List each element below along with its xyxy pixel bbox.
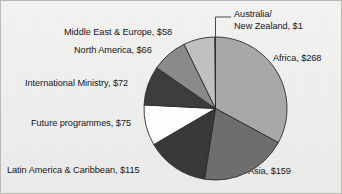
slice-label-australia-line2: New Zealand, $1 [234,21,303,31]
slice-label-middle-east-europe: Middle East & Europe, $58 [64,27,172,39]
slice-label-africa: Africa, $268 [273,53,321,65]
slice-label-international-ministry: International Ministry, $72 [25,78,128,90]
slice-label-future-programmes: Future programmes, $75 [31,118,131,130]
pie-slice-group [144,37,287,180]
leader-line-group [216,17,232,37]
slice-label-asia: Asia, $159 [248,166,291,178]
slice-label-australia-line1: Australia/ [234,9,272,19]
slice-label-latin-america-caribbean: Latin America & Caribbean, $115 [7,165,140,177]
pie-slice [215,37,216,109]
pie-chart-figure: Australia/ New Zealand, $1 Middle East &… [0,0,342,194]
slice-label-australia-new-zealand: Australia/ New Zealand, $1 [234,9,338,32]
slice-label-north-america: North America, $66 [74,45,152,57]
